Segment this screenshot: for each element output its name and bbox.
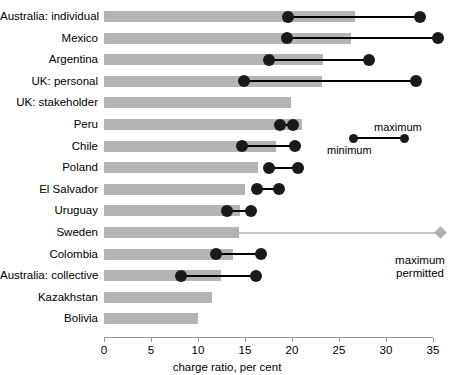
maximum-dot-1 [432,32,444,44]
minimum-dot-7 [263,162,275,174]
x-axis-tick-label-3: 15 [230,344,260,356]
permitted-line-10 [239,232,440,234]
legend-maximum-dot [400,134,409,143]
x-axis-line [104,337,433,338]
x-axis-tick-6 [386,338,387,342]
row-label-11: Colombia [0,248,98,260]
bar-13 [104,292,212,303]
maximum-dot-8 [273,183,285,195]
bar-7 [104,162,258,173]
bar-9 [104,205,240,216]
bar-10 [104,227,239,238]
range-line-0 [288,16,420,18]
row-label-2: Argentina [0,53,98,65]
x-axis-tick-label-1: 5 [136,344,166,356]
x-axis-tick-label-0: 0 [89,344,119,356]
row-label-0: Australia: individual [0,10,98,22]
minimum-dot-2 [263,54,275,66]
x-axis-tick-label-5: 25 [324,344,354,356]
minimum-dot-8 [251,183,263,195]
row-label-5: Peru [0,118,98,130]
maximum-dot-9 [245,205,257,217]
row-label-9: Uruguay [0,204,98,216]
row-label-4: UK: stakeholder [0,96,98,108]
bar-5 [104,119,302,130]
maximum-dot-0 [414,11,426,23]
x-axis-tick-label-7: 35 [418,344,448,356]
x-axis-tick-5 [339,338,340,342]
permitted-diamond-10 [434,226,447,239]
x-axis-tick-label-6: 30 [371,344,401,356]
legend-minimum-dot [349,134,358,143]
row-label-13: Kazakhstan [0,291,98,303]
maximum-dot-3 [410,75,422,87]
row-label-6: Chile [0,140,98,152]
minimum-dot-12 [175,270,187,282]
x-axis-tick-4 [292,338,293,342]
range-line-1 [287,37,437,39]
range-line-3 [244,80,416,82]
row-label-10: Sweden [0,226,98,238]
x-axis-tick-7 [433,338,434,342]
x-axis-title: charge ratio, per cent [0,361,454,373]
x-axis-tick-3 [245,338,246,342]
range-line-12 [181,275,256,277]
maximum-dot-7 [292,162,304,174]
range-line-2 [269,59,370,61]
legend-maximum-label: maximum [374,121,422,133]
bar-8 [104,184,245,195]
chart-canvas: Australia: individualMexicoArgentinaUK: … [0,0,454,375]
x-axis-tick-1 [151,338,152,342]
row-label-3: UK: personal [0,75,98,87]
bar-4 [104,97,291,108]
range-line-6 [242,145,295,147]
row-label-14: Bolivia [0,312,98,324]
x-axis-tick-0 [104,338,105,342]
row-label-1: Mexico [0,32,98,44]
minimum-dot-5 [274,119,286,131]
row-label-7: Poland [0,161,98,173]
x-axis-tick-label-4: 20 [277,344,307,356]
legend-minimum-label: minimum [327,144,372,156]
maximum-dot-5 [287,119,299,131]
row-label-12: Australia: collective [0,269,98,281]
minimum-dot-11 [210,248,222,260]
x-axis-tick-label-2: 10 [183,344,213,356]
x-axis-tick-2 [198,338,199,342]
maximum-dot-12 [250,270,262,282]
row-label-8: El Salvador [0,183,98,195]
legend-range-line [353,137,404,139]
minimum-dot-9 [221,205,233,217]
minimum-dot-0 [282,11,294,23]
maximum-dot-2 [363,54,375,66]
bar-14 [104,313,198,324]
maximum-dot-11 [255,248,267,260]
maximum-permitted-label: maximum permitted [386,254,454,280]
maximum-dot-6 [289,140,301,152]
